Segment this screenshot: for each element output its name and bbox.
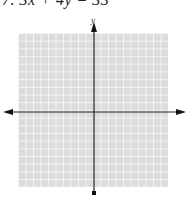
axes	[0, 0, 189, 198]
y-axis-up-arrow-icon	[91, 22, 97, 32]
x-axis-left-arrow-icon	[3, 109, 13, 115]
y-axis-bottom-end-icon	[92, 191, 96, 195]
x-axis-right-arrow-icon	[176, 109, 186, 115]
